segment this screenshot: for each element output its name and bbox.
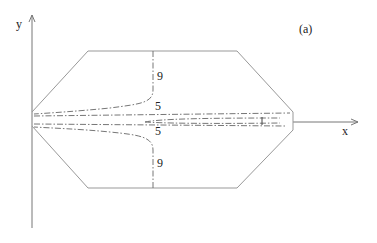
contour-label-9-upper: 9 xyxy=(157,69,163,83)
contour-9-lower xyxy=(34,127,153,188)
contour-label-9-lower: 9 xyxy=(157,156,163,170)
contour-5-upper xyxy=(34,113,290,116)
contour-1-lower xyxy=(145,122,280,123)
panel-label: (a) xyxy=(299,22,312,36)
contour-label-5-lower: 5 xyxy=(155,124,161,138)
contour-label-5-upper: 5 xyxy=(155,99,161,113)
y-axis-label: y xyxy=(16,17,22,31)
x-axis xyxy=(293,119,358,125)
contour-1-upper xyxy=(145,118,280,122)
y-axis xyxy=(29,15,35,228)
diagram-canvas: y x (a) 9 5 5 9 1 xyxy=(0,0,377,243)
contour-9-upper xyxy=(34,51,153,114)
x-axis-label: x xyxy=(342,124,348,138)
